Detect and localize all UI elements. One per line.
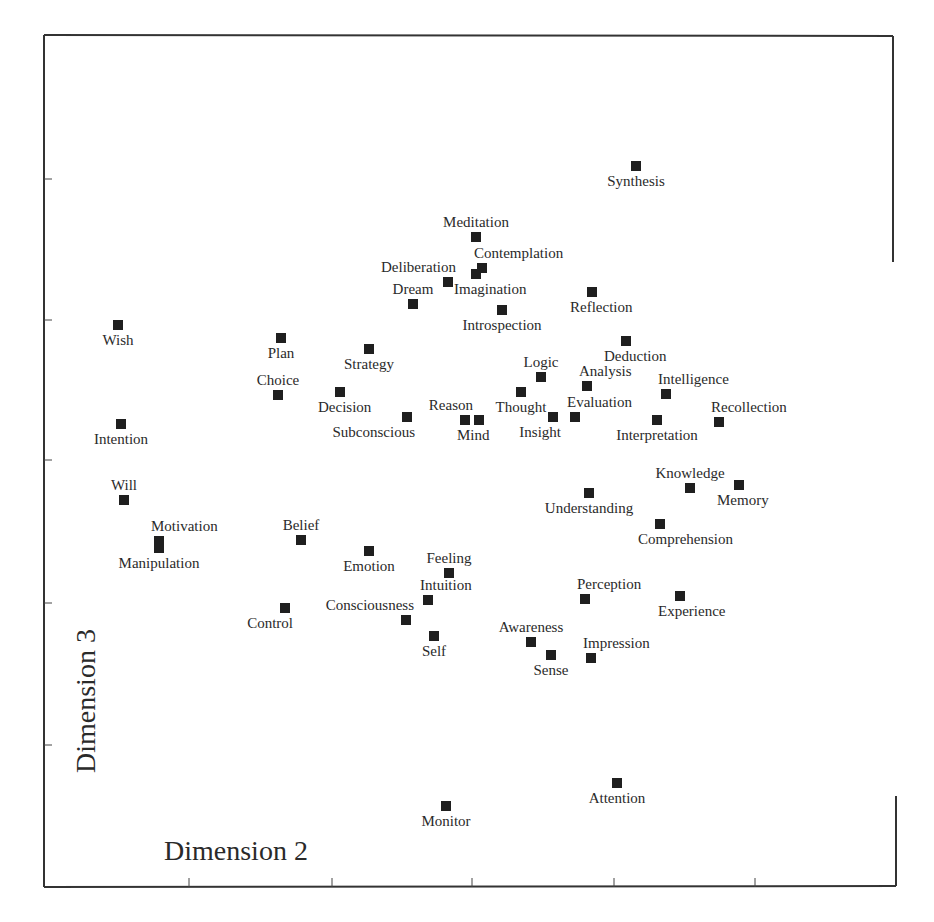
- square-marker-icon: [441, 801, 451, 811]
- data-point: Intuition: [420, 577, 472, 605]
- point-label: Intelligence: [658, 371, 729, 387]
- x-axis-title: Dimension 2: [164, 835, 308, 866]
- square-marker-icon: [460, 415, 470, 425]
- point-label: Subconscious: [333, 424, 416, 440]
- point-label: Motivation: [151, 518, 218, 534]
- point-label: Imagination: [454, 281, 527, 297]
- data-point: Sense: [534, 650, 569, 678]
- point-label: Recollection: [711, 399, 787, 415]
- data-point: Evaluation: [567, 394, 632, 422]
- point-label: Belief: [283, 517, 320, 533]
- point-label: Manipulation: [119, 555, 200, 571]
- point-label: Reason: [429, 397, 474, 413]
- data-point: Motivation: [151, 518, 218, 546]
- square-marker-icon: [335, 387, 345, 397]
- data-point: Reflection: [570, 287, 633, 315]
- point-label: Interpretation: [616, 427, 698, 443]
- point-label: Meditation: [443, 214, 509, 230]
- square-marker-icon: [364, 344, 374, 354]
- data-point: Perception: [577, 576, 642, 604]
- square-marker-icon: [364, 546, 374, 556]
- square-marker-icon: [570, 412, 580, 422]
- square-marker-icon: [621, 336, 631, 346]
- point-label: Self: [422, 643, 446, 659]
- y-axis-ticks: [44, 179, 52, 745]
- point-label: Sense: [534, 662, 569, 678]
- frame-bottom: [44, 886, 896, 887]
- data-point: Knowledge: [655, 465, 724, 493]
- data-point: Introspection: [462, 305, 542, 333]
- data-point: Attention: [589, 778, 646, 806]
- square-marker-icon: [526, 637, 536, 647]
- square-marker-icon: [675, 591, 685, 601]
- data-point: Emotion: [343, 546, 395, 574]
- data-point: Strategy: [344, 344, 394, 372]
- data-point: Contemplation: [474, 245, 564, 273]
- point-label: Contemplation: [474, 245, 564, 261]
- point-label: Logic: [524, 354, 559, 370]
- square-marker-icon: [584, 488, 594, 498]
- point-label: Insight: [519, 424, 562, 440]
- square-marker-icon: [429, 631, 439, 641]
- square-marker-icon: [471, 269, 481, 279]
- data-point: Wish: [102, 320, 134, 348]
- point-label: Awareness: [499, 619, 564, 635]
- square-marker-icon: [580, 594, 590, 604]
- point-label: Attention: [589, 790, 646, 806]
- point-label: Memory: [717, 492, 769, 508]
- point-label: Evaluation: [567, 394, 632, 410]
- point-label: Synthesis: [607, 173, 665, 189]
- point-label: Monitor: [421, 813, 470, 829]
- data-point: Synthesis: [607, 161, 665, 189]
- square-marker-icon: [516, 387, 526, 397]
- point-label: Knowledge: [655, 465, 724, 481]
- point-label: Reflection: [570, 299, 633, 315]
- square-marker-icon: [536, 372, 546, 382]
- data-point: Comprehension: [638, 519, 733, 547]
- square-marker-icon: [296, 535, 306, 545]
- data-point: Decision: [318, 387, 372, 415]
- square-marker-icon: [582, 381, 592, 391]
- point-label: Decision: [318, 399, 372, 415]
- square-marker-icon: [443, 277, 453, 287]
- square-marker-icon: [273, 390, 283, 400]
- square-marker-icon: [280, 603, 290, 613]
- data-point: Meditation: [443, 214, 509, 242]
- point-label: Perception: [577, 576, 642, 592]
- data-point: Awareness: [499, 619, 564, 647]
- plot-frame: [44, 35, 896, 887]
- point-label: Analysis: [579, 363, 632, 379]
- data-point: Intelligence: [658, 371, 729, 399]
- data-point: Memory: [717, 480, 769, 508]
- point-label: Plan: [268, 345, 295, 361]
- frame-top: [44, 35, 893, 36]
- data-point: Deduction: [604, 336, 667, 364]
- square-marker-icon: [548, 412, 558, 422]
- square-marker-icon: [423, 595, 433, 605]
- square-marker-icon: [497, 305, 507, 315]
- data-point: Subconscious: [333, 412, 416, 440]
- data-point: Will: [111, 477, 137, 505]
- point-label: Experience: [658, 603, 726, 619]
- data-point: Interpretation: [616, 415, 698, 443]
- data-point: Reason: [429, 397, 474, 425]
- square-marker-icon: [685, 483, 695, 493]
- data-point: Feeling: [427, 550, 472, 578]
- square-marker-icon: [113, 320, 123, 330]
- data-point: Choice: [257, 372, 300, 400]
- data-point: Plan: [268, 333, 295, 361]
- square-marker-icon: [546, 650, 556, 660]
- point-label: Control: [247, 615, 293, 631]
- square-marker-icon: [631, 161, 641, 171]
- square-marker-icon: [154, 543, 164, 553]
- data-point: Monitor: [421, 801, 470, 829]
- square-marker-icon: [661, 389, 671, 399]
- data-point: Self: [422, 631, 446, 659]
- point-label: Deduction: [604, 348, 667, 364]
- square-marker-icon: [402, 412, 412, 422]
- square-marker-icon: [119, 495, 129, 505]
- data-point: Analysis: [579, 363, 632, 391]
- point-label: Introspection: [462, 317, 542, 333]
- data-point: Experience: [658, 591, 726, 619]
- point-label: Feeling: [427, 550, 472, 566]
